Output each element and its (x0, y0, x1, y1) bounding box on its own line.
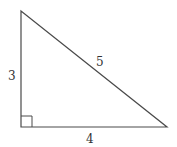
hypotenuse-label: 5 (96, 55, 104, 69)
triangle-diagram: 3 5 4 (0, 0, 177, 147)
right-angle-marker (21, 116, 32, 127)
vertical-leg-label: 3 (8, 69, 16, 83)
right-triangle (21, 11, 167, 127)
horizontal-leg-label: 4 (86, 132, 94, 146)
